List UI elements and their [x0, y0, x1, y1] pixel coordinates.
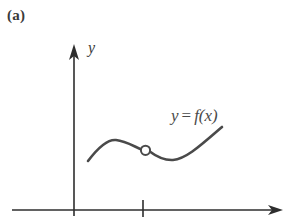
curve-equation-operator: =	[179, 106, 195, 125]
curve-equation-label: y=f(x)	[171, 107, 218, 124]
graph-canvas	[0, 0, 290, 218]
function-curve-group	[88, 127, 222, 161]
axes-group	[12, 44, 283, 217]
function-curve-right-branch	[149, 127, 222, 160]
function-curve-left-branch	[88, 140, 142, 161]
open-circle-hole	[141, 146, 150, 155]
y-axis-label: y	[88, 40, 95, 56]
curve-equation-lhs: y	[171, 106, 179, 125]
curve-equation-rhs: f(x)	[194, 106, 218, 125]
figure-panel-a: (a) y y=f(x)	[0, 0, 290, 218]
